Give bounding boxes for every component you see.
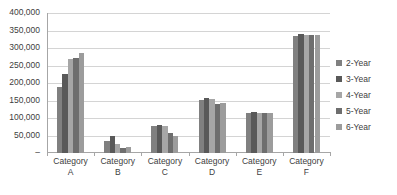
category-label-line2: C — [141, 167, 188, 178]
category-label-line2: E — [236, 167, 283, 178]
y-axis-tick-label: 300,000 — [0, 43, 45, 52]
legend-item[interactable]: 2-Year — [336, 55, 397, 71]
y-axis-tick-label: – — [0, 148, 45, 157]
x-axis-category-label: CategoryC — [141, 156, 188, 178]
bar — [315, 35, 320, 153]
plot-area — [47, 13, 330, 153]
x-axis-category-label: CategoryB — [94, 156, 141, 178]
y-axis-tick-label: 350,000 — [0, 26, 45, 35]
bar-group — [104, 13, 131, 153]
category-label-line1: Category — [47, 156, 94, 167]
category-label-line1: Category — [236, 156, 283, 167]
legend-swatch-icon — [336, 60, 342, 66]
x-axis-category-label: CategoryA — [47, 156, 94, 178]
x-axis-tickmark — [330, 152, 331, 156]
category-label-line1: Category — [189, 156, 236, 167]
legend-label: 5-Year — [346, 107, 371, 116]
y-axis-tick-label: 250,000 — [0, 61, 45, 70]
y-axis-tick-label: 400,000 — [0, 8, 45, 17]
legend-label: 2-Year — [346, 59, 371, 68]
legend-swatch-icon — [336, 124, 342, 130]
category-label-line1: Category — [283, 156, 330, 167]
x-axis-category-label: CategoryD — [189, 156, 236, 178]
y-axis: 400,000350,000300,000250,000200,000150,0… — [0, 0, 45, 195]
legend-label: 3-Year — [346, 75, 371, 84]
y-axis-tick-label: 150,000 — [0, 96, 45, 105]
y-axis-tick-label: 100,000 — [0, 113, 45, 122]
legend-item[interactable]: 6-Year — [336, 119, 397, 135]
y-axis-tick-label: 200,000 — [0, 78, 45, 87]
x-axis-category-label: CategoryF — [283, 156, 330, 178]
x-axis: CategoryACategoryBCategoryCCategoryDCate… — [47, 156, 330, 195]
y-axis-tick-label: 50,000 — [0, 131, 45, 140]
bar-group — [151, 13, 178, 153]
legend-item[interactable]: 5-Year — [336, 103, 397, 119]
bar-group — [293, 13, 320, 153]
category-label-line2: A — [47, 167, 94, 178]
bar — [173, 136, 178, 153]
legend-label: 6-Year — [346, 123, 371, 132]
bar-group — [57, 13, 84, 153]
bar-group — [246, 13, 273, 153]
x-axis-category-label: CategoryE — [236, 156, 283, 178]
bar — [79, 53, 84, 153]
category-label-line1: Category — [94, 156, 141, 167]
legend: 2-Year3-Year4-Year5-Year6-Year — [336, 55, 397, 135]
legend-swatch-icon — [336, 76, 342, 82]
legend-item[interactable]: 4-Year — [336, 87, 397, 103]
category-label-line2: B — [94, 167, 141, 178]
legend-swatch-icon — [336, 108, 342, 114]
legend-label: 4-Year — [346, 91, 371, 100]
category-label-line2: D — [189, 167, 236, 178]
category-label-line1: Category — [141, 156, 188, 167]
legend-swatch-icon — [336, 92, 342, 98]
bar-group — [199, 13, 226, 153]
bar — [220, 103, 225, 153]
bars-layer — [47, 13, 330, 153]
legend-item[interactable]: 3-Year — [336, 71, 397, 87]
bar — [267, 113, 272, 153]
category-label-line2: F — [283, 167, 330, 178]
bar-chart: 400,000350,000300,000250,000200,000150,0… — [0, 0, 397, 195]
bar — [126, 147, 131, 153]
